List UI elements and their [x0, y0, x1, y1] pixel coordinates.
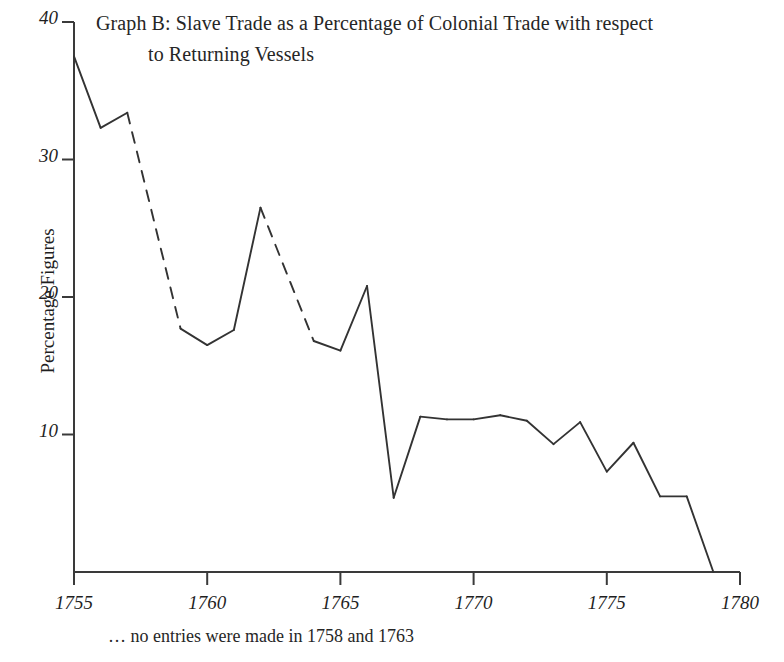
- data-line-segment: [101, 113, 128, 128]
- chart-title-line-2: to Returning Vessels: [96, 39, 784, 70]
- data-line-segment: [234, 208, 261, 330]
- data-line-segment-dashed: [127, 113, 180, 329]
- data-line-segment-dashed: [260, 208, 313, 341]
- data-line-segment: [207, 330, 234, 345]
- chart-title: Graph B: Slave Trade as a Percentage of …: [96, 8, 784, 70]
- x-axis-ticks: [74, 572, 740, 585]
- chart-figure: Graph B: Slave Trade as a Percentage of …: [0, 0, 784, 662]
- data-line-segment: [554, 422, 581, 444]
- data-line-segment: [527, 421, 554, 444]
- data-line-segment: [367, 286, 394, 498]
- data-line-segment: [633, 443, 660, 497]
- x-axis-tick-label: 1780: [695, 592, 784, 614]
- y-axis-tick-label: 30: [0, 145, 58, 167]
- chart-title-line-1: Graph B: Slave Trade as a Percentage of …: [96, 8, 784, 39]
- y-axis-ticks: [62, 22, 74, 435]
- axes-group: [74, 22, 740, 572]
- data-line-segment: [687, 496, 714, 572]
- plot-area: [0, 0, 784, 662]
- data-line-segment: [420, 417, 447, 420]
- chart-footnote: … no entries were made in 1758 and 1763: [108, 626, 414, 647]
- x-axis-tick-label: 1755: [29, 592, 119, 614]
- x-axis-tick-label: 1775: [562, 592, 652, 614]
- data-line-segment: [314, 341, 341, 351]
- data-line-segment: [340, 286, 367, 351]
- y-axis-tick-label: 40: [0, 7, 58, 29]
- data-line-segment: [394, 417, 421, 498]
- x-axis-tick-label: 1770: [429, 592, 519, 614]
- data-line-segment: [607, 443, 634, 472]
- data-line-segment: [500, 415, 527, 421]
- y-axis-tick-label: 10: [0, 420, 58, 442]
- x-axis-tick-label: 1765: [295, 592, 385, 614]
- data-line-segment: [580, 422, 607, 472]
- x-axis-tick-label: 1760: [162, 592, 252, 614]
- y-axis-tick-label: 20: [0, 282, 58, 304]
- data-line-segment: [181, 329, 208, 346]
- data-line-segment: [474, 415, 501, 419]
- data-series-line: [74, 56, 713, 572]
